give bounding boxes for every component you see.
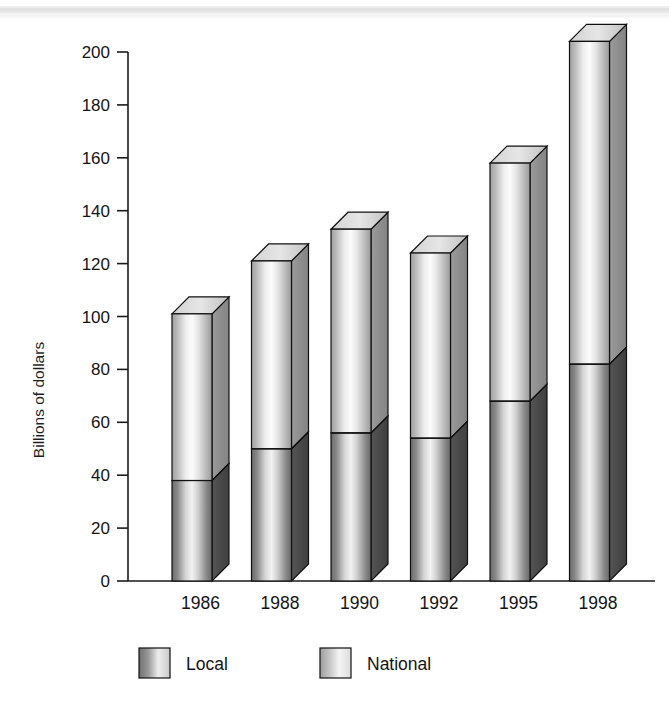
bar-1988[interactable] (252, 244, 309, 581)
bar-local-side-face (530, 384, 547, 581)
chart-legend: LocalNational (139, 648, 431, 678)
bar-local-front-face (172, 480, 212, 581)
x-axis-tick-label-1998: 1998 (579, 593, 618, 613)
bar-local-side-face (212, 463, 229, 581)
bar-local-front-face (570, 364, 610, 581)
stacked-bar-chart-figure: Billions of dollars 02040608010012014016… (0, 0, 669, 723)
legend-swatch-national (320, 648, 351, 678)
bar-local-front-face (331, 433, 371, 581)
x-axis-tick-label-1992: 1992 (420, 593, 459, 613)
legend-item-local[interactable]: Local (139, 648, 228, 678)
bar-local-side-face (292, 432, 309, 581)
bar-national-side-face (610, 24, 627, 364)
bar-national-front-face (172, 314, 212, 481)
bar-national-side-face (292, 244, 309, 449)
y-axis-tick-label: 40 (91, 466, 110, 485)
y-axis-tick-label: 120 (82, 255, 110, 274)
y-axis-tick-label: 160 (82, 149, 110, 168)
bar-local-side-face (371, 416, 388, 581)
y-axis-tick-label: 200 (82, 43, 110, 62)
bar-national-front-face (490, 163, 530, 401)
bars-layer (172, 24, 627, 581)
bar-1995[interactable] (490, 146, 547, 581)
y-axis-tick-label: 180 (82, 96, 110, 115)
x-axis-tick-label-1988: 1988 (261, 593, 300, 613)
bar-national-side-face (451, 236, 468, 438)
bar-national-front-face (570, 41, 610, 364)
bar-1990[interactable] (331, 212, 388, 581)
bar-national-front-face (331, 229, 371, 433)
y-axis-title: Billions of dollars (30, 342, 47, 459)
bar-local-front-face (490, 401, 530, 581)
bar-national-front-face (411, 253, 451, 438)
y-axis: 020406080100120140160180200 (82, 43, 128, 591)
bar-local-side-face (610, 347, 627, 581)
chart-canvas: Billions of dollars 02040608010012014016… (0, 0, 669, 723)
y-axis-title-text: Billions of dollars (30, 342, 47, 459)
x-axis-tick-labels: 198619881990199219951998 (181, 593, 617, 613)
legend-label-local: Local (186, 654, 228, 674)
y-axis-tick-label: 20 (91, 519, 110, 538)
bar-local-side-face (451, 421, 468, 581)
bar-local-front-face (411, 438, 451, 581)
x-axis-tick-label-1986: 1986 (181, 593, 220, 613)
bar-1986[interactable] (172, 297, 229, 581)
y-axis-tick-label: 0 (101, 572, 110, 591)
y-axis-tick-label: 140 (82, 202, 110, 221)
x-axis-tick-label-1995: 1995 (499, 593, 538, 613)
x-axis-tick-label-1990: 1990 (340, 593, 379, 613)
bar-1992[interactable] (411, 236, 468, 581)
y-axis-tick-label: 60 (91, 413, 110, 432)
y-axis-tick-label: 100 (82, 308, 110, 327)
bar-national-side-face (212, 297, 229, 481)
y-axis-tick-label: 80 (91, 360, 110, 379)
bar-1998[interactable] (570, 24, 627, 581)
legend-swatch-local (139, 648, 170, 678)
legend-item-national[interactable]: National (320, 648, 431, 678)
bar-national-front-face (252, 261, 292, 449)
bar-local-front-face (252, 449, 292, 581)
legend-label-national: National (367, 654, 431, 674)
bar-national-side-face (371, 212, 388, 433)
bar-national-side-face (530, 146, 547, 401)
